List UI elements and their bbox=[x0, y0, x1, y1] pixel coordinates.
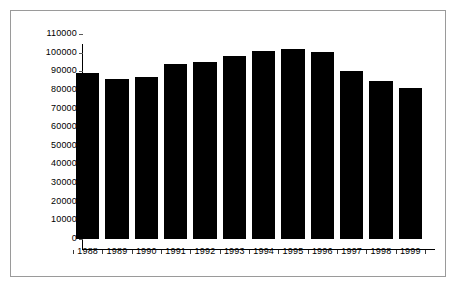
bar-series bbox=[73, 34, 425, 239]
bar bbox=[369, 81, 392, 239]
x-axis-tick-label: 1988 bbox=[73, 246, 102, 256]
x-axis-tick-label: 1996 bbox=[308, 246, 337, 256]
bar bbox=[135, 77, 158, 239]
x-axis-tick-label: 1995 bbox=[278, 246, 307, 256]
y-axis-tick-label: 10000 bbox=[11, 215, 77, 224]
x-axis-tick-mark bbox=[425, 250, 426, 254]
bar bbox=[340, 71, 363, 239]
x-axis-tick-label: 1999 bbox=[396, 246, 425, 256]
x-axis-tick-label: 1990 bbox=[132, 246, 161, 256]
x-axis-tick-label: 1992 bbox=[190, 246, 219, 256]
bar bbox=[252, 51, 275, 239]
y-axis-tick-mark bbox=[79, 239, 83, 240]
bar bbox=[76, 73, 99, 239]
y-axis-tick-label: 20000 bbox=[11, 197, 77, 206]
y-axis-tick-label: 60000 bbox=[11, 122, 77, 131]
y-axis-tick-label: 110000 bbox=[11, 29, 77, 38]
x-axis-tick-label: 1993 bbox=[220, 246, 249, 256]
y-axis-tick-label: 40000 bbox=[11, 159, 77, 168]
x-axis-tick-label: 1998 bbox=[366, 246, 395, 256]
x-axis-tick-labels: 1988198919901991199219931994199519961997… bbox=[73, 246, 425, 260]
chart-frame-border: 1100001000009000080000700006000050000400… bbox=[10, 10, 446, 277]
bar bbox=[105, 79, 128, 239]
bar bbox=[311, 52, 334, 239]
x-axis-tick-label: 1989 bbox=[102, 246, 131, 256]
bar bbox=[281, 49, 304, 239]
y-axis-tick-label: 30000 bbox=[11, 178, 77, 187]
y-axis-tick-label: 90000 bbox=[11, 66, 77, 75]
y-axis-tick-label: 70000 bbox=[11, 104, 77, 113]
chart-figure: 1100001000009000080000700006000050000400… bbox=[0, 0, 458, 290]
y-axis-tick-label: 100000 bbox=[11, 48, 77, 57]
bar bbox=[164, 64, 187, 239]
bar bbox=[399, 88, 422, 239]
x-axis-tick-label: 1991 bbox=[161, 246, 190, 256]
x-axis-tick-label: 1997 bbox=[337, 246, 366, 256]
bar bbox=[193, 62, 216, 239]
y-axis-tick-label: 50000 bbox=[11, 141, 77, 150]
y-axis-tick-label: 0 bbox=[11, 234, 77, 243]
y-axis-tick-label: 80000 bbox=[11, 85, 77, 94]
x-axis-tick-label: 1994 bbox=[249, 246, 278, 256]
bar bbox=[223, 56, 246, 239]
